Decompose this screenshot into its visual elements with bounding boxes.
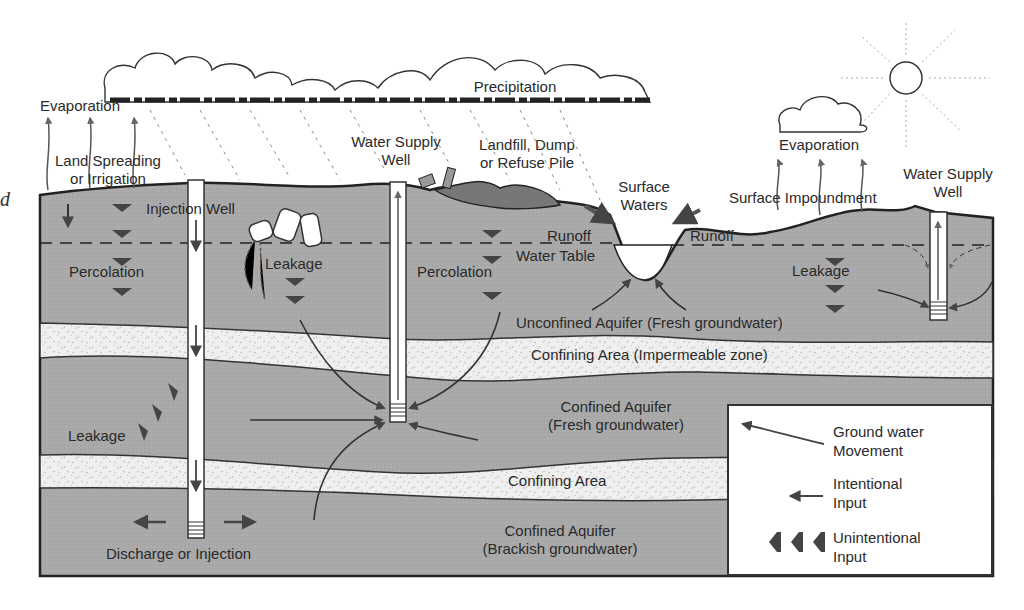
margin-glyph: d xyxy=(0,188,10,211)
legend: Ground water Movement Intentional Input … xyxy=(727,404,993,576)
label-water-table: Water Table xyxy=(516,247,595,265)
label-land-spreading: Land Spreading or Irrigation xyxy=(55,152,161,188)
label-leakage-barrels: Leakage xyxy=(265,255,323,273)
label-confined-aquifer-brackish: Confined Aquifer (Brackish groundwater) xyxy=(482,522,637,558)
legend-item-intentional-input: Intentional Input xyxy=(833,474,902,512)
label-confining-area-1: Confining Area (Impermeable zone) xyxy=(531,346,768,364)
legend-item-unintentional-input: Unintentional Input xyxy=(833,528,921,566)
label-surface-impoundment: Surface Impoundment xyxy=(729,189,877,207)
legend-symbols xyxy=(729,406,829,574)
label-percolation-left: Percolation xyxy=(69,263,144,281)
label-percolation-center: Percolation xyxy=(417,263,492,281)
injection-well xyxy=(188,180,204,538)
label-surface-waters: Surface Waters xyxy=(618,178,670,214)
legend-item-groundwater-movement: Ground water Movement xyxy=(833,422,924,460)
label-runoff-left: Runoff xyxy=(547,227,591,245)
label-leakage-deep: Leakage xyxy=(68,427,126,445)
label-confined-aquifer-fresh: Confined Aquifer (Fresh groundwater) xyxy=(548,398,684,434)
label-evaporation-right: Evaporation xyxy=(779,136,859,154)
water-supply-well-center xyxy=(390,182,406,422)
curved-arrow-icon xyxy=(743,424,824,444)
label-water-supply-well-center: Water Supply Well xyxy=(351,133,440,169)
label-landfill: Landfill, Dump or Refuse Pile xyxy=(479,136,575,172)
label-unconfined-aquifer: Unconfined Aquifer (Fresh groundwater) xyxy=(516,314,783,332)
groundwater-diagram: d Precipitation Evaporation Evaporation … xyxy=(0,0,1024,610)
label-runoff-right: Runoff xyxy=(690,227,734,245)
label-injection-well: Injection Well xyxy=(146,200,235,218)
label-precipitation: Precipitation xyxy=(474,78,557,96)
chevron-arrows-icon xyxy=(769,532,825,552)
label-confining-area-2: Confining Area xyxy=(508,472,606,490)
label-water-supply-well-right: Water Supply Well xyxy=(903,165,992,201)
label-leakage-right: Leakage xyxy=(792,262,850,280)
label-discharge-injection: Discharge or Injection xyxy=(106,545,251,563)
label-evaporation-left: Evaporation xyxy=(40,97,120,115)
